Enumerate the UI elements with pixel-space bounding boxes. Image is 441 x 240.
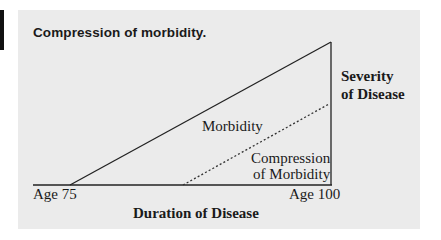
duration-of-disease-axis-label: Duration of Disease: [133, 205, 259, 222]
severity-label-line2: of Disease: [341, 85, 405, 103]
compression-label-line1: Compression: [251, 150, 330, 166]
severity-label-line1: Severity: [341, 67, 405, 85]
compression-of-morbidity-label: Compression of Morbidity: [251, 150, 330, 182]
age-75-label: Age 75: [33, 186, 77, 203]
compression-label-line2: of Morbidity: [251, 166, 330, 182]
severity-of-disease-label: Severity of Disease: [341, 67, 405, 103]
morbidity-label: Morbidity: [202, 118, 263, 135]
age-100-label: Age 100: [289, 186, 340, 203]
